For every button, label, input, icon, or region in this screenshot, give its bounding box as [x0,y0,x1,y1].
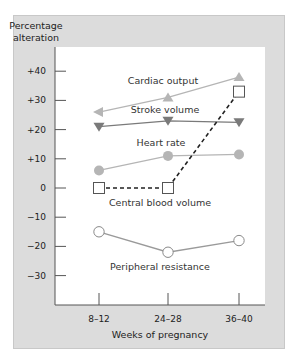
x-tick-label: 24–28 [154,314,182,324]
chart: Percentage alteration +40+30+20+100−10−2… [0,0,293,361]
x-tick-label: 36–40 [225,314,253,324]
data-point [234,149,244,159]
data-point [234,235,244,245]
y-tick-label: −10 [27,212,46,222]
data-point [163,183,174,194]
y-tick-label: +30 [27,95,46,105]
data-point [163,247,173,257]
y-tick-label: 0 [40,183,46,193]
data-point [234,86,245,97]
y-axis-title-line2: alteration [13,32,59,43]
label-stroke-volume: Stroke volume [131,104,200,115]
y-tick-label: +10 [27,154,46,164]
x-axis-title: Weeks of pregnancy [112,329,209,340]
label-peripheral-resistance: Peripheral resistance [110,261,210,272]
data-point [163,151,173,161]
x-tick-label: 8–12 [88,314,110,324]
y-tick-label: −20 [27,241,46,251]
data-point [94,183,105,194]
y-tick-label: +20 [27,125,46,135]
data-point [94,165,104,175]
label-central-blood-volume: Central blood volume [109,197,211,208]
y-tick-label: −30 [27,271,46,281]
y-axis-title-line1: Percentage [9,20,63,31]
y-tick-label: +40 [27,66,46,76]
label-heart-rate: Heart rate [137,137,186,148]
label-cardiac-output: Cardiac output [128,75,199,86]
data-point [94,227,104,237]
